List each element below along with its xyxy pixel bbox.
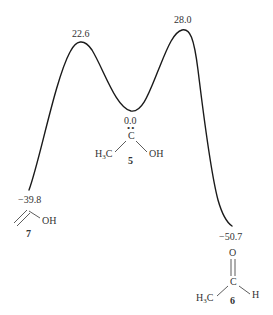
ts2-energy-label: 28.0 <box>174 15 192 25</box>
compound-5-oh: OH <box>149 149 163 159</box>
bond-double-a-7 <box>14 210 27 223</box>
compound-6-oxygen: O <box>229 248 236 258</box>
bond-c-ch3-5 <box>115 141 126 152</box>
energy-profile-curve <box>0 0 273 315</box>
bond-c-ch3-6 <box>217 286 228 296</box>
ts1-energy-label: 22.6 <box>72 29 90 39</box>
left-product-energy-label: −39.8 <box>18 195 41 205</box>
energy-diagram: 22.6 28.0 0.0 −39.8 −50.7 •• C H3C OH 5 … <box>0 0 273 315</box>
compound-6-h: H <box>252 290 259 300</box>
bond-c-o-7 <box>29 211 40 218</box>
compound-5-number: 5 <box>128 156 133 166</box>
compound-5-carbon: C <box>128 131 135 141</box>
bond-c-oh-5 <box>136 141 147 152</box>
compound-6-ch3: H3C <box>196 293 213 303</box>
compound-7-number: 7 <box>26 229 31 239</box>
compound-5-ch3: H3C <box>95 149 112 159</box>
compound-6-number: 6 <box>230 296 235 306</box>
compound-7-oh: OH <box>42 216 56 226</box>
right-product-energy-label: −50.7 <box>219 232 242 242</box>
bond-c-h-6 <box>239 286 250 294</box>
bond-double-b-7 <box>17 213 30 226</box>
compound-6-carbon: C <box>230 277 237 287</box>
